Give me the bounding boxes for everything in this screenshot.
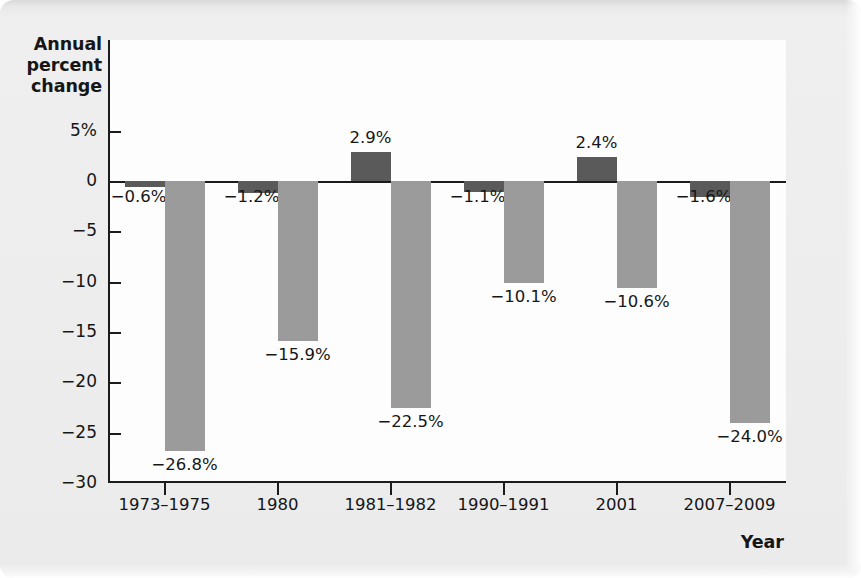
y-axis-tick-label: 0 <box>7 170 97 190</box>
plot-inner <box>110 40 786 481</box>
y-axis-tick-label: 5% <box>7 120 97 140</box>
y-axis-tick-label: −5 <box>7 220 97 240</box>
x-axis-tick-label: 1973–1975 <box>118 495 210 514</box>
plot-area <box>108 40 786 483</box>
bar-consumer <box>351 152 391 181</box>
bar-investment <box>504 181 544 283</box>
chart-figure: Annual percent change Year Consumer spen… <box>0 0 861 578</box>
x-axis-tick <box>390 483 392 495</box>
bar-value-label: −0.6% <box>111 187 167 206</box>
bar-value-label: −24.0% <box>716 427 782 446</box>
x-axis-tick-label: 2007–2009 <box>683 495 775 514</box>
x-axis-tick <box>616 483 618 495</box>
y-axis-tick-label: −15 <box>7 321 97 341</box>
bar-value-label: −10.6% <box>603 292 669 311</box>
x-axis-tick <box>277 483 279 495</box>
bar-investment <box>730 181 770 423</box>
y-axis-title-line-1: Annual <box>18 34 102 55</box>
paper-edge-right <box>845 0 861 578</box>
x-axis-tick-label: 1981–1982 <box>344 495 436 514</box>
y-axis-tick <box>110 282 121 284</box>
bar-value-label: −26.8% <box>151 455 217 474</box>
x-axis-tick <box>503 483 505 495</box>
y-axis-tick-label: −20 <box>7 371 97 391</box>
y-axis-tick <box>110 382 121 384</box>
bar-value-label: −1.1% <box>450 187 506 206</box>
bar-value-label: −15.9% <box>264 345 330 364</box>
bar-value-label: 2.4% <box>576 133 618 152</box>
y-axis-tick-label: −10 <box>7 271 97 291</box>
bar-value-label: −1.2% <box>224 187 280 206</box>
zero-baseline <box>110 181 786 183</box>
bar-value-label: −1.6% <box>676 187 732 206</box>
bar-investment <box>391 181 431 408</box>
y-axis-tick <box>110 131 121 133</box>
x-axis-tick-label: 2001 <box>596 495 638 514</box>
paper-edge-bottom <box>0 564 861 578</box>
x-axis-tick <box>729 483 731 495</box>
y-axis-title-line-3: change <box>18 76 102 97</box>
bar-value-label: 2.9% <box>350 128 392 147</box>
x-axis-title: Year <box>700 532 784 552</box>
y-axis-title: Annual percent change <box>18 34 102 97</box>
bar-investment <box>617 181 657 288</box>
bar-value-label: −22.5% <box>377 412 443 431</box>
bar-investment <box>165 181 205 451</box>
x-axis-tick-label: 1990–1991 <box>457 495 549 514</box>
y-axis-tick <box>110 231 121 233</box>
y-axis-tick <box>110 433 121 435</box>
y-axis-tick <box>110 332 121 334</box>
y-axis-title-line-2: percent <box>18 55 102 76</box>
bar-consumer <box>577 157 617 181</box>
x-axis-tick <box>164 483 166 495</box>
y-axis-tick-label: −30 <box>7 472 97 492</box>
y-axis-tick-label: −25 <box>7 422 97 442</box>
x-axis-tick-label: 1980 <box>257 495 299 514</box>
bar-value-label: −10.1% <box>490 287 556 306</box>
bar-investment <box>278 181 318 341</box>
